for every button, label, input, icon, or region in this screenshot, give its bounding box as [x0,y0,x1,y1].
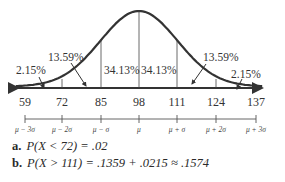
sigma-label-3: μ [137,125,141,134]
tick-98: 98 [133,95,145,109]
answer-a: a.P(X < 72) = .02 [12,139,107,154]
label-left-mid: 13.59% [48,51,84,63]
tick-59: 59 [19,95,31,109]
normal-distribution-chart: 2.15% 13.59% 34.13% 34.13% 13.59% 2.15% … [0,0,285,182]
sigma-label-4: μ + σ [169,125,186,134]
answer-a-text: P(X < 72) = .02 [26,139,107,153]
sigma-label-6: μ + 3σ [246,125,266,134]
sigma-labels: μ − 3σ μ − 2σ μ − σ μ μ + σ μ + 2σ μ + 3… [15,125,266,134]
tick-72: 72 [56,95,68,109]
label-right-tail: 2.15% [231,68,261,80]
answer-b-letter: b. [12,156,22,170]
sigma-label-0: μ − 3σ [15,125,35,134]
pointer-right-mid [192,64,206,84]
tick-85: 85 [95,95,107,109]
value-ticks: 59 72 85 98 111 124 137 [19,95,265,109]
sigma-label-5: μ + 2σ [206,125,226,134]
answer-a-letter: a. [12,139,21,153]
answer-b: b.P(X > 111) = .1359 + .0215 ≈ .1574 [12,156,209,171]
label-left-tail: 2.15% [16,64,46,76]
tick-124: 124 [207,95,225,109]
pointer-left-mid [71,63,86,86]
tick-111: 111 [168,95,185,109]
tick-137: 137 [247,95,265,109]
label-center-right: 34.13% [141,64,177,76]
label-center-left: 34.13% [104,64,140,76]
sigma-label-2: μ − σ [93,125,110,134]
sigma-label-1: μ − 2σ [52,125,72,134]
label-right-mid: 13.59% [203,51,239,63]
answer-b-text: P(X > 111) = .1359 + .0215 ≈ .1574 [27,156,209,170]
